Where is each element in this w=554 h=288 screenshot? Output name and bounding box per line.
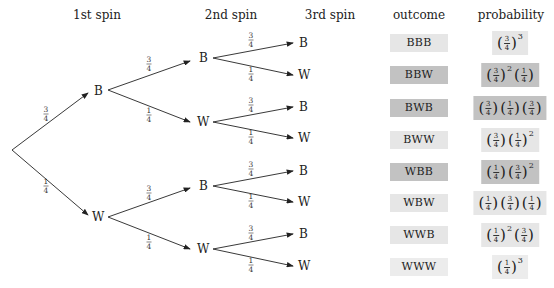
svg-text:4: 4 [147, 193, 152, 202]
svg-text:1: 1 [249, 256, 254, 265]
svg-text:4: 4 [249, 169, 254, 178]
outcome-wwb: WWB [390, 226, 448, 244]
svg-text:3: 3 [147, 184, 152, 193]
node-l3-w: W [298, 195, 311, 209]
svg-text:1: 1 [249, 128, 254, 137]
svg-text:3: 3 [249, 96, 254, 105]
svg-text:4: 4 [249, 137, 254, 146]
node-l1-w: W [92, 210, 105, 224]
outcome-wbb: WBB [390, 163, 448, 181]
outcome-bwb: BWB [390, 99, 448, 117]
outcome-www: WWW [390, 258, 448, 276]
node-l2-b: B [199, 179, 208, 193]
svg-text:1: 1 [249, 65, 254, 74]
svg-text:4: 4 [249, 74, 254, 83]
node-l3-b: B [299, 36, 308, 50]
outcome-bbw: BBW [390, 66, 448, 84]
outcome-wbw: WBW [390, 194, 448, 212]
node-l3-b: B [299, 100, 308, 114]
tree-diagram: B W B W B W B W B W B W B W 34 14 34 14 … [0, 0, 380, 288]
probability-www: (14)3 [492, 255, 528, 279]
svg-text:4: 4 [147, 242, 152, 251]
node-l2-w: W [197, 242, 210, 256]
svg-text:1: 1 [147, 233, 152, 242]
probability-bbb: (34)3 [492, 31, 528, 55]
svg-text:4: 4 [249, 233, 254, 242]
svg-text:4: 4 [44, 186, 49, 195]
node-l3-b: B [299, 164, 308, 178]
header-probability: probability [478, 8, 544, 22]
svg-text:1: 1 [249, 192, 254, 201]
outcome-bww: BWW [390, 131, 448, 149]
probability-wbb: (14) (34)2 [481, 160, 539, 184]
svg-text:4: 4 [147, 115, 152, 124]
svg-text:3: 3 [249, 31, 254, 40]
svg-text:4: 4 [249, 40, 254, 49]
probability-wbw: (14) (34) (14) [473, 191, 546, 215]
svg-text:3: 3 [44, 105, 49, 114]
probability-bww: (34) (14)2 [481, 128, 539, 152]
svg-text:3: 3 [147, 55, 152, 64]
header-outcome: outcome [393, 8, 445, 22]
svg-text:4: 4 [147, 64, 152, 73]
outcome-bbb: BBB [390, 34, 448, 52]
branch-probabilities: 34 14 34 14 34 14 34 14 34 14 34 14 34 1… [44, 31, 254, 274]
svg-text:4: 4 [44, 114, 49, 123]
node-l2-b: B [199, 51, 208, 65]
node-l3-w: W [298, 259, 311, 273]
svg-text:1: 1 [44, 177, 49, 186]
node-l3-w: W [298, 68, 311, 82]
svg-text:3: 3 [249, 160, 254, 169]
node-l1-b: B [94, 84, 103, 98]
node-l3-b: B [299, 227, 308, 241]
svg-text:4: 4 [249, 265, 254, 274]
probability-wwb: (14)2 (34) [481, 223, 539, 247]
svg-text:4: 4 [249, 201, 254, 210]
probability-bbw: (34)2 (14) [481, 63, 539, 87]
node-l2-w: W [197, 115, 210, 129]
node-l3-w: W [298, 131, 311, 145]
svg-text:3: 3 [249, 224, 254, 233]
svg-text:4: 4 [249, 105, 254, 114]
svg-text:1: 1 [147, 106, 152, 115]
probability-bwb: (34) (14) (34) [473, 96, 546, 120]
